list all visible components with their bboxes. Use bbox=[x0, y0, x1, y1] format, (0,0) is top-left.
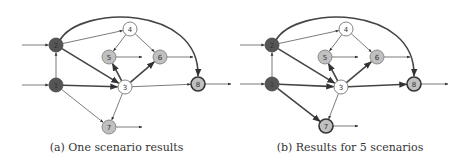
node-1: 1 bbox=[49, 78, 63, 92]
node-label: 1 bbox=[270, 81, 274, 89]
node-8: 8 bbox=[191, 77, 205, 91]
node-label: 4 bbox=[344, 26, 349, 34]
node-6: 6 bbox=[153, 50, 167, 64]
node-label: 5 bbox=[323, 54, 327, 62]
node-8: 8 bbox=[407, 77, 421, 91]
node-2: 2 bbox=[49, 38, 63, 52]
edge-2-4 bbox=[63, 31, 123, 44]
node-2: 2 bbox=[265, 38, 279, 52]
node-3: 3 bbox=[118, 80, 132, 94]
edge-3-6 bbox=[346, 62, 371, 83]
edge-3-7 bbox=[329, 94, 339, 119]
node-label: 6 bbox=[158, 54, 163, 62]
edge-3-5 bbox=[329, 64, 338, 81]
edge-1-7 bbox=[278, 88, 321, 121]
panel-a-graph: 12345678 bbox=[22, 17, 231, 134]
edge-4-6 bbox=[135, 34, 154, 52]
node-label: 1 bbox=[54, 82, 58, 90]
node-4: 4 bbox=[123, 22, 137, 36]
node-label: 2 bbox=[54, 42, 58, 50]
node-label: 5 bbox=[107, 54, 111, 62]
node-5: 5 bbox=[318, 50, 332, 64]
edge-4-5 bbox=[330, 35, 342, 51]
node-label: 8 bbox=[196, 81, 200, 89]
edge-3-5 bbox=[113, 64, 122, 81]
node-7: 7 bbox=[319, 119, 333, 133]
node-7: 7 bbox=[102, 120, 116, 134]
caption-panel-b: (b) Results for 5 scenarios bbox=[233, 141, 467, 154]
edge-3-7 bbox=[112, 93, 123, 120]
edge-2-4 bbox=[279, 31, 339, 44]
node-6: 6 bbox=[370, 50, 384, 64]
edge-3-8 bbox=[348, 84, 407, 86]
node-label: 7 bbox=[107, 124, 111, 132]
node-4: 4 bbox=[339, 22, 353, 36]
edge-1-3 bbox=[63, 85, 118, 87]
node-label: 2 bbox=[270, 42, 274, 50]
node-label: 3 bbox=[339, 84, 343, 92]
edge-4-5 bbox=[114, 35, 126, 51]
node-1: 1 bbox=[265, 77, 279, 91]
edge-1-3 bbox=[279, 84, 334, 86]
node-label: 7 bbox=[324, 123, 328, 131]
network-diagram: 12345678 12345678 bbox=[0, 0, 467, 163]
caption-panel-a: (a) One scenario results bbox=[0, 141, 233, 154]
node-5: 5 bbox=[102, 50, 116, 64]
edge-4-6 bbox=[351, 34, 371, 52]
edge-3-8 bbox=[132, 84, 191, 86]
node-3: 3 bbox=[334, 80, 348, 94]
panel-b-graph: 12345678 bbox=[240, 17, 448, 133]
node-label: 3 bbox=[123, 84, 127, 92]
node-label: 6 bbox=[375, 54, 380, 62]
node-label: 8 bbox=[412, 81, 416, 89]
edge-1-7 bbox=[61, 89, 103, 122]
edge-3-6 bbox=[130, 62, 154, 83]
node-label: 4 bbox=[128, 26, 133, 34]
